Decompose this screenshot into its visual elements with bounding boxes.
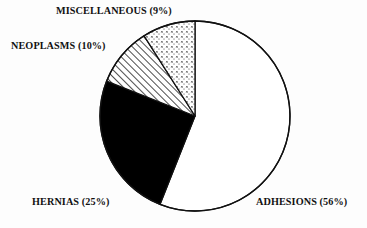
pie-chart-figure: MISCELLANEOUS (9%) NEOPLASMS (10%) HERNI… [0,0,367,228]
pie-chart-svg [0,0,367,228]
pie-label-miscellaneous: MISCELLANEOUS (9%) [56,5,172,16]
pie-label-adhesions: ADHESIONS (56%) [256,196,347,207]
pie-label-neoplasms: NEOPLASMS (10%) [11,40,106,51]
pie-label-hernias: HERNIAS (25%) [32,196,109,207]
